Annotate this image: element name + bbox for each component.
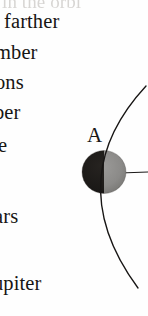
- book-page-crop: in the orbi farther mber ons ber e ars u…: [0, 0, 148, 316]
- orbit-diagram-svg: [78, 0, 148, 316]
- orbit-diagram: A: [78, 0, 148, 316]
- text-line-7: upiter: [0, 272, 41, 295]
- text-line-6: ars: [0, 205, 18, 228]
- text-line-1: farther: [4, 10, 59, 33]
- text-line-2: mber: [0, 41, 38, 64]
- text-line-3: ons: [0, 71, 24, 94]
- text-line-4: ber: [0, 101, 20, 124]
- diagram-label-a: A: [87, 125, 102, 146]
- text-line-5: e: [0, 134, 7, 157]
